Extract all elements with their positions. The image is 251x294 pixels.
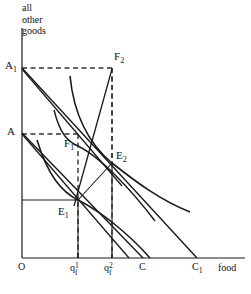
x-tick-label-C1: C1 xyxy=(192,262,203,275)
point-label-E1-sub: 1 xyxy=(65,211,69,220)
y-axis-label-line1: all xyxy=(22,2,82,14)
dashed-guides xyxy=(22,68,112,258)
point-label-E1-base: E xyxy=(58,205,65,217)
x-tick-origin-text: O xyxy=(18,261,25,272)
indifference-curve-U1 xyxy=(37,140,150,258)
point-label-E2: E2 xyxy=(116,150,127,164)
x-tick-label-q2f: q2f xyxy=(104,262,113,276)
budget-line-A1-C1 xyxy=(22,68,197,258)
x-axis-label: food xyxy=(218,263,236,273)
x-tick-label-C: C xyxy=(139,262,146,272)
point-label-E2-base: E xyxy=(116,149,123,161)
x-tick-q2f-sub: f xyxy=(109,269,113,276)
axes xyxy=(22,28,245,258)
x-tick-C1-sub: 1 xyxy=(199,266,203,275)
x-tick-label-q1f: q1f xyxy=(70,262,79,276)
budget-line-A-steep xyxy=(22,134,129,258)
point-label-F1: F1 xyxy=(64,138,74,152)
helper-segments xyxy=(22,68,112,258)
point-label-E2-sub: 2 xyxy=(123,155,127,164)
point-label-F2-sub: 2 xyxy=(120,56,124,65)
x-tick-q1f-sub: f xyxy=(75,269,79,276)
point-label-A-base: A xyxy=(7,125,15,137)
y-axis-label-line2: other xyxy=(22,14,82,26)
point-label-E1: E1 xyxy=(58,206,69,220)
y-axis-label: all other goods xyxy=(22,2,82,37)
x-tick-C1-base: C xyxy=(192,261,199,272)
x-axis-label-text: food xyxy=(218,262,236,273)
point-label-A: A xyxy=(7,126,15,137)
point-label-F1-sub: 1 xyxy=(70,143,74,152)
indifference-curve-U-compensated xyxy=(54,110,155,221)
x-tick-C-base: C xyxy=(139,261,146,272)
budget-lines xyxy=(22,68,197,258)
x-axis-ticks xyxy=(78,253,112,258)
point-label-A1-base: A xyxy=(5,59,13,71)
point-label-A1-sub: 1 xyxy=(13,65,17,74)
point-label-A1: A1 xyxy=(5,60,17,74)
x-tick-q2f-frac: 2f xyxy=(109,262,113,276)
point-label-F2: F2 xyxy=(114,51,124,65)
y-axis-label-line3: goods xyxy=(22,25,82,37)
diagram-canvas xyxy=(0,0,251,294)
x-tick-q1f-frac: 1f xyxy=(75,262,79,276)
indifference-curve-figure: all other goods A1 A F2 F1 E2 E1 O q1f q… xyxy=(0,0,251,294)
x-tick-label-origin: O xyxy=(18,262,25,272)
